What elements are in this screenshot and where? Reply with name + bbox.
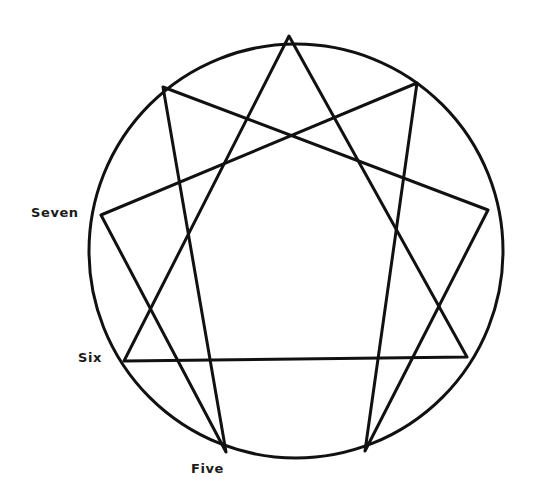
enneagram-diagram xyxy=(0,0,551,501)
outer-circle xyxy=(89,44,503,458)
point-label-five: Five xyxy=(191,462,224,475)
enneagram-figure: Seven Six Five xyxy=(0,0,551,501)
hexad-figure xyxy=(101,83,488,452)
point-label-seven: Seven xyxy=(31,206,79,219)
point-label-six: Six xyxy=(78,351,102,364)
